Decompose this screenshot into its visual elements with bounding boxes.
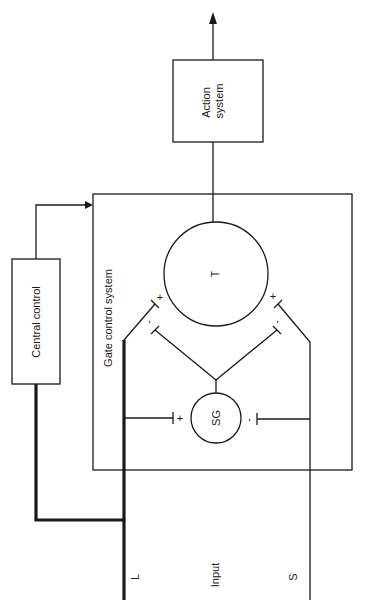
central-control-label: Central control <box>30 286 42 358</box>
t-label: T <box>210 271 221 277</box>
l-to-central-control-line <box>36 384 124 520</box>
sign-s-sg: - <box>242 418 254 422</box>
l-label: L <box>129 574 141 580</box>
output-arrow-icon <box>209 12 217 24</box>
central-arrow-icon <box>85 201 93 209</box>
action-label-2: system <box>213 84 225 119</box>
gate-control-diagram: Action system Central control Gate contr… <box>0 0 367 606</box>
action-label-1: Action <box>200 87 212 118</box>
sign-l-t: + <box>157 291 163 303</box>
central-to-gate-line <box>36 205 88 259</box>
svg-text:Action system: Action system <box>200 84 225 119</box>
sign-sg-t-left: - <box>142 320 154 324</box>
s-fiber-line <box>278 304 310 600</box>
sg-to-t-right-line <box>216 330 277 380</box>
input-label: Input <box>209 563 221 587</box>
gate-control-label: Gate control system <box>102 269 114 367</box>
s-label: S <box>287 573 299 580</box>
gate-control-box <box>93 194 352 470</box>
sign-sg-t-right: - <box>270 320 282 324</box>
sign-s-t: + <box>270 290 276 302</box>
sg-to-t-left-line <box>155 330 216 380</box>
sign-l-sg: + <box>177 412 183 424</box>
sg-label: SG <box>210 410 222 426</box>
